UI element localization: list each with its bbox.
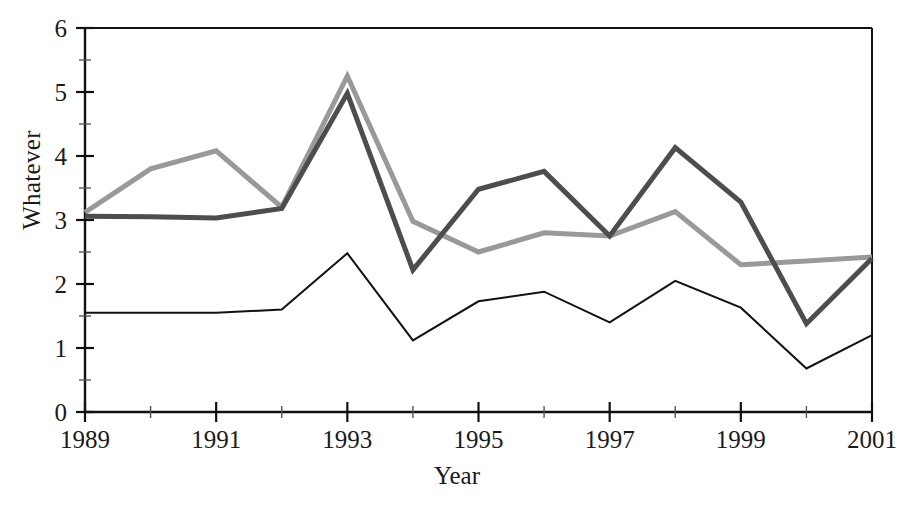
x-tick-label: 1999: [716, 426, 766, 453]
y-tick-label: 0: [55, 399, 68, 426]
x-tick-label: 1991: [191, 426, 241, 453]
y-axis-tick-labels: 0123456: [55, 15, 68, 426]
y-tick-label: 6: [55, 15, 68, 42]
y-tick-label: 5: [55, 79, 68, 106]
x-tick-label: 2001: [847, 426, 897, 453]
x-axis-tick-labels: 1989199119931995199719992001: [60, 426, 897, 453]
x-tick-label: 1989: [60, 426, 110, 453]
black-series: [85, 253, 872, 368]
y-tick-label: 3: [55, 207, 68, 234]
y-tick-label: 4: [55, 143, 68, 170]
x-tick-label: 1997: [585, 426, 635, 453]
x-tick-label: 1993: [322, 426, 372, 453]
x-tick-label: 1995: [454, 426, 504, 453]
line-chart-plot: 0123456 1989199119931995199719992001: [0, 0, 914, 505]
y-tick-label: 1: [55, 335, 68, 362]
data-series-group: [85, 76, 872, 368]
dark-gray-series: [85, 93, 872, 323]
y-tick-label: 2: [55, 271, 68, 298]
light-gray-series: [85, 76, 872, 265]
chart-container: Whatever Year 0123456 198919911993199519…: [0, 0, 914, 505]
